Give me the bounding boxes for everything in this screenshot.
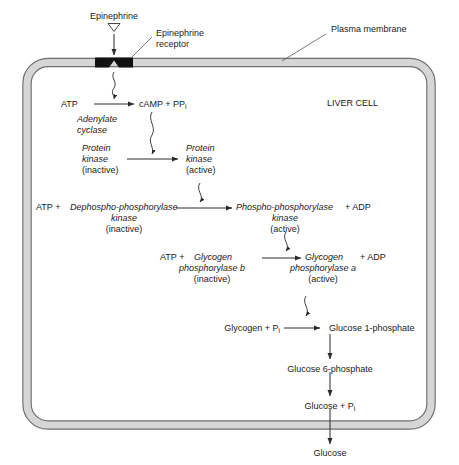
wavy-connector-camp-to-protein-kinase xyxy=(150,112,153,154)
glucose-pi-text: Glucose + P xyxy=(305,401,354,411)
glycogen-phosphorylase-a-line3: (active) xyxy=(308,274,338,285)
glycogen-pi-subscript: i xyxy=(278,327,280,334)
glycogen-cascade-diagram: Epinephrine Epinephrine receptor Plasma … xyxy=(0,0,459,465)
dephospho-phosphorylase-kinase-line1: Dephospho-phosphorylase xyxy=(70,202,178,213)
protein-kinase-inactive-line3: (inactive) xyxy=(82,165,119,176)
glucose-6-phosphate-label: Glucose 6-phosphate xyxy=(287,364,373,375)
adenylate-cyclase-line1: Adenylate xyxy=(77,114,117,125)
glucose-1-phosphate-label: Glucose 1-phosphate xyxy=(329,323,415,334)
atp-label-camp-step: ATP xyxy=(61,99,78,110)
protein-kinase-active-line2: kinase xyxy=(186,154,212,165)
glycogen-pi-label: Glycogen + Pi xyxy=(224,323,280,336)
epinephrine-label: Epinephrine xyxy=(90,11,138,22)
protein-kinase-inactive-line2: kinase xyxy=(82,154,108,165)
dephospho-phosphorylase-kinase-line3: (inactive) xyxy=(106,224,143,235)
atp-label-glycogen-phosphorylase-step: ATP + xyxy=(160,252,184,263)
wavy-connector-receptor-to-cyclase xyxy=(112,72,115,99)
dephospho-phosphorylase-kinase-line2: kinase xyxy=(111,213,137,224)
camp-product-text: cAMP + PP xyxy=(139,99,185,109)
diagram-vector-layer xyxy=(0,0,459,465)
glucose-label: Glucose xyxy=(313,448,346,459)
epinephrine-receptor-label-line2: receptor xyxy=(156,39,189,50)
adp-label-phosphorylase-kinase-step: + ADP xyxy=(345,202,371,213)
glycogen-phosphorylase-b-line1: Glycogen xyxy=(194,252,232,263)
plasma-membrane-label: Plasma membrane xyxy=(331,24,407,35)
epinephrine-marker xyxy=(108,24,120,56)
protein-kinase-active-line3: (active) xyxy=(186,165,216,176)
glycogen-pi-text: Glycogen + P xyxy=(224,323,278,333)
adenylate-cyclase-line2: cyclase xyxy=(77,125,107,136)
glucose-pi-subscript: i xyxy=(354,405,356,412)
phospho-phosphorylase-kinase-line3: (active) xyxy=(270,224,300,235)
atp-label-phosphorylase-kinase-step: ATP + xyxy=(36,202,60,213)
glycogen-phosphorylase-a-line1: Glycogen xyxy=(305,252,343,263)
phospho-phosphorylase-kinase-line1: Phospho-phosphorylase xyxy=(236,202,333,213)
wavy-connector-pk-to-phosphorylase-kinase xyxy=(199,183,202,202)
glycogen-phosphorylase-b-line3: (inactive) xyxy=(194,274,231,285)
protein-kinase-inactive-line1: Protein xyxy=(82,143,111,154)
liver-cell-label: LIVER CELL xyxy=(327,98,378,109)
camp-product-label: cAMP + PPi xyxy=(139,99,187,112)
glucose-pi-label: Glucose + Pi xyxy=(305,401,356,414)
glycogen-phosphorylase-b-line2: phosphorylase b xyxy=(179,263,245,274)
camp-product-subscript: i xyxy=(185,103,187,110)
epinephrine-receptor-label-line1: Epinephrine xyxy=(156,28,204,39)
adp-label-glycogen-phosphorylase-step: + ADP xyxy=(360,252,386,263)
wavy-connector-gp-to-glycogen-breakdown xyxy=(305,296,308,316)
phospho-phosphorylase-kinase-line2: kinase xyxy=(272,213,298,224)
glycogen-phosphorylase-a-line2: phosphorylase a xyxy=(290,263,356,274)
protein-kinase-active-line1: Protein xyxy=(186,143,215,154)
